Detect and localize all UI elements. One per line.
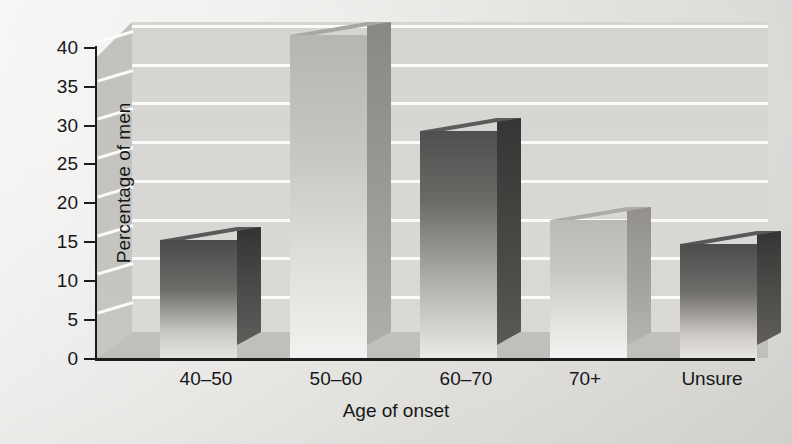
bar-50-60[interactable]: [290, 22, 367, 358]
y-tick-label-35: 35: [57, 77, 78, 96]
y-tick-35: [84, 86, 95, 88]
y-tick-40: [84, 47, 95, 49]
bar-40-50-side: [237, 227, 261, 345]
y-tick-label-20: 20: [57, 193, 78, 212]
y-tick-25: [84, 163, 95, 165]
y-tick-10: [84, 280, 95, 282]
bar-60-70-side: [497, 118, 521, 345]
x-tick-label-60-70: 60–70: [440, 368, 493, 390]
y-tick-label-15: 15: [57, 232, 78, 251]
chart-page: Percentage of men 40 35 30 25 20 15 10 5…: [0, 0, 792, 444]
bar-50-60-front: [290, 35, 367, 358]
bar-40-50[interactable]: [160, 22, 237, 358]
bar-unsure[interactable]: [680, 22, 757, 358]
y-tick-label-10: 10: [57, 271, 78, 290]
x-axis-title: Age of onset: [0, 400, 792, 422]
bar-50-60-side: [367, 22, 391, 345]
bar-unsure-side: [757, 231, 781, 345]
y-tick-label-40: 40: [57, 38, 78, 57]
bar-40-50-front: [160, 240, 237, 358]
bar-unsure-front: [680, 244, 757, 358]
bar-70-plus-front: [550, 220, 627, 358]
plot-area: Percentage of men: [96, 22, 768, 358]
x-tick-label-50-60: 50–60: [310, 368, 363, 390]
y-tick-5: [84, 319, 95, 321]
y-tick-0: [84, 358, 95, 360]
y-axis-title: Percentage of men: [113, 73, 135, 293]
x-axis-line: [95, 358, 755, 361]
y-tick-label-5: 5: [67, 310, 78, 329]
y-tick-15: [84, 241, 95, 243]
y-tick-20: [84, 202, 95, 204]
bar-70-plus[interactable]: [550, 22, 627, 358]
y-tick-label-25: 25: [57, 154, 78, 173]
bar-60-70[interactable]: [420, 22, 497, 358]
bar-60-70-front: [420, 131, 497, 358]
x-tick-label-70-plus: 70+: [569, 368, 601, 390]
y-tick-label-30: 30: [57, 116, 78, 135]
y-tick-label-0: 0: [67, 349, 78, 368]
y-axis-line: [95, 46, 97, 360]
bar-70-plus-side: [627, 207, 651, 345]
x-tick-label-40-50: 40–50: [180, 368, 233, 390]
y-tick-30: [84, 125, 95, 127]
x-tick-label-unsure: Unsure: [681, 368, 742, 390]
